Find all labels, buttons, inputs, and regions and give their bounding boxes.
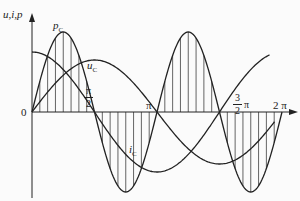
y-axis-arrow-icon (29, 13, 35, 22)
tick-pi: π (146, 100, 152, 111)
u-c-label: uC (87, 60, 97, 74)
capacitor-power-waveform-diagram: u,i,p 0 pC uC iC π 2 π 3 2 π 2 π (0, 0, 300, 201)
p-c-label: pC (53, 20, 63, 34)
i-c-label: iC (129, 144, 137, 158)
origin-label: 0 (21, 107, 27, 118)
tick-half-pi: π 2 (84, 86, 93, 109)
tick-two-pi: 2 π (273, 100, 287, 111)
x-axis-arrow-icon (289, 109, 298, 115)
tick-three-half-pi: 3 2 π (233, 93, 249, 116)
y-axis-label: u,i,p (3, 9, 23, 20)
